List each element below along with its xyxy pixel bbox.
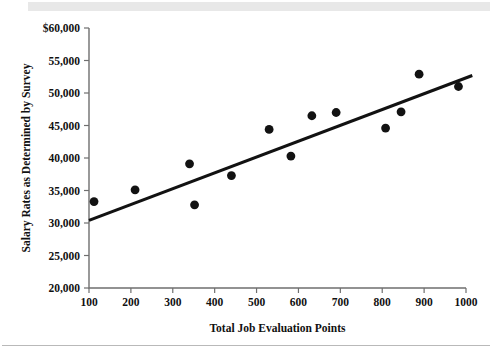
y-tick-label: 20,000 — [48, 282, 80, 294]
x-tick-label: 100 — [80, 296, 98, 308]
data-point — [265, 125, 274, 134]
y-tick-label: 35,000 — [48, 185, 80, 197]
data-point — [185, 159, 194, 168]
x-tick-label: 900 — [415, 296, 433, 308]
footer-rule — [2, 345, 490, 346]
data-point — [332, 108, 341, 117]
data-point — [415, 70, 424, 79]
y-tick-label: 50,000 — [48, 87, 80, 99]
y-axis-title: Salary Rates as Determined by Survey — [20, 63, 33, 252]
data-point — [454, 82, 463, 91]
chart-figure: 20,00025,00030,00035,00040,00045,00050,0… — [0, 0, 494, 349]
y-tick-label: $60,000 — [43, 22, 81, 34]
y-tick-label: 45,000 — [48, 120, 80, 132]
y-tick-label: 40,000 — [48, 152, 80, 164]
x-tick-label: 700 — [332, 296, 350, 308]
y-tick-label: 55,000 — [48, 55, 80, 67]
x-tick-label: 500 — [248, 296, 266, 308]
trend-line — [89, 75, 472, 220]
data-point — [190, 200, 199, 209]
x-tick-label: 200 — [122, 296, 140, 308]
x-tick-label: 400 — [206, 296, 224, 308]
x-tick-label: 800 — [374, 296, 392, 308]
axis-spines — [89, 28, 466, 288]
y-tick-label: 25,000 — [48, 250, 80, 262]
x-tick-label: 1000 — [455, 296, 478, 308]
data-point — [90, 197, 99, 206]
data-point — [397, 107, 406, 116]
x-tick-label: 600 — [290, 296, 308, 308]
x-axis-title: Total Job Evaluation Points — [209, 322, 346, 334]
data-point — [227, 171, 236, 180]
data-point — [381, 124, 390, 133]
y-tick-label: 30,000 — [48, 217, 80, 229]
scatter-plot: 20,00025,00030,00035,00040,00045,00050,0… — [0, 0, 494, 349]
data-point — [131, 185, 140, 194]
data-point — [307, 111, 316, 120]
x-tick-label: 300 — [164, 296, 182, 308]
data-point — [287, 152, 296, 161]
